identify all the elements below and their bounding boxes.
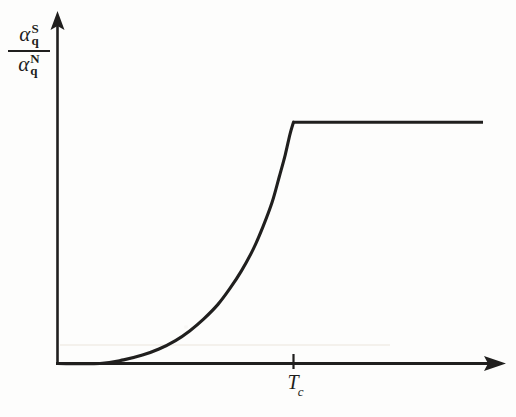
numerator-subscript: q: [31, 35, 38, 47]
y-axis-label-denominator: αNq: [6, 54, 52, 78]
tc-symbol: T: [288, 371, 299, 393]
y-axis: [51, 11, 65, 363]
x-axis: [56, 356, 506, 371]
data-curve: [58, 122, 484, 364]
curve-scan-dropout: [184, 325, 188, 329]
alpha-symbol-denominator: α: [18, 52, 29, 76]
y-axis-label: αSq αNq: [6, 24, 52, 78]
numerator-scripts: Sq: [31, 23, 38, 47]
denominator-scripts: Nq: [30, 53, 39, 77]
figure-container: αSq αNq Tc: [0, 0, 516, 417]
denominator-subscript: q: [30, 65, 39, 77]
tc-subscript: c: [298, 384, 304, 399]
y-axis-label-numerator: αSq: [6, 24, 52, 48]
curve-rising-branch: [58, 122, 294, 364]
alpha-symbol-numerator: α: [19, 22, 30, 46]
plot-area: [0, 0, 516, 417]
x-axis-tick-label-tc: Tc: [276, 372, 316, 396]
